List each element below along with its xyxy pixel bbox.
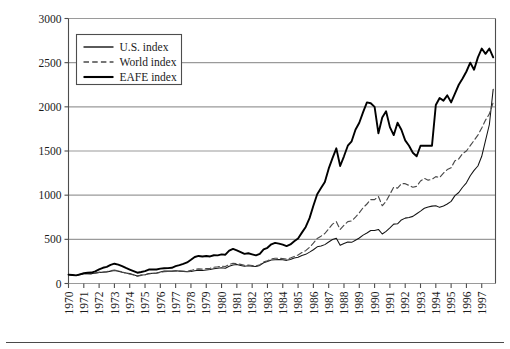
xtick-label: 1992 [399, 291, 411, 314]
xtick-label: 1977 [170, 291, 182, 314]
xtick-label: 1995 [445, 291, 457, 314]
ytick-label: 2500 [39, 57, 62, 69]
xtick-label: 1979 [200, 291, 212, 314]
ytick-label: 2000 [39, 101, 62, 113]
xtick-label: 1984 [277, 291, 289, 314]
xtick-label: 1990 [369, 291, 381, 314]
xtick-label: 1989 [353, 291, 365, 314]
xtick-label: 1971 [78, 291, 90, 314]
chart-figure: 050010001500200025003000 197019711972197… [0, 0, 510, 349]
xtick-label: 1982 [246, 291, 258, 314]
xtick-label: 1980 [216, 291, 228, 314]
xtick-label: 1973 [109, 291, 121, 314]
xtick-label: 1978 [185, 291, 197, 314]
xtick-label: 1993 [415, 291, 427, 314]
xtick-label: 1974 [124, 291, 136, 314]
ytick-label: 3000 [39, 13, 62, 25]
xtick-label: 1988 [338, 291, 350, 314]
index-performance-line-chart: 050010001500200025003000 197019711972197… [0, 0, 510, 349]
xtick-label: 1996 [461, 291, 473, 314]
ytick-label: 0 [56, 278, 62, 290]
xtick-label: 1985 [292, 291, 304, 314]
xtick-label: 1987 [323, 291, 335, 314]
xtick-label: 1976 [155, 291, 167, 314]
xtick-label: 1983 [262, 291, 274, 314]
legend-label-1: World index [120, 56, 177, 68]
xtick-label: 1972 [93, 291, 105, 314]
legend-label-2: EAFE index [120, 71, 177, 83]
ytick-label: 500 [44, 233, 62, 245]
legend-label-0: U.S. index [120, 41, 169, 53]
xtick-label: 1997 [476, 291, 488, 314]
ytick-label: 1000 [39, 189, 62, 201]
xtick-label: 1986 [308, 291, 320, 314]
xtick-label: 1981 [231, 291, 243, 314]
ytick-label: 1500 [39, 145, 62, 157]
xtick-label: 1991 [384, 291, 396, 314]
chart-legend: U.S. indexWorld indexEAFE index [77, 35, 182, 85]
xtick-label: 1994 [430, 291, 442, 314]
xtick-label: 1975 [139, 291, 151, 314]
xtick-label: 1970 [63, 291, 75, 314]
